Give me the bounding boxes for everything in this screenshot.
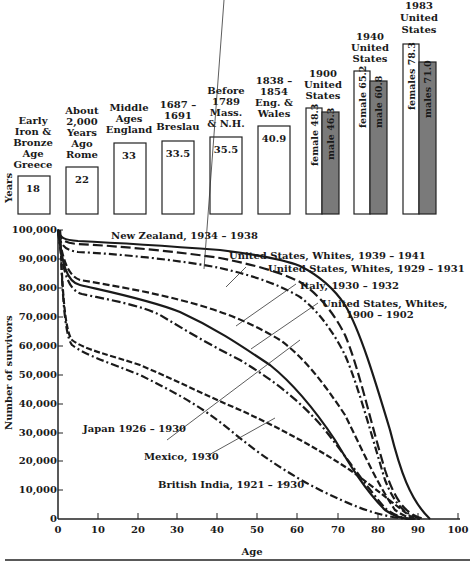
x-tick-label: 10 — [91, 524, 105, 535]
bar-label-line: United — [304, 79, 342, 90]
y-tick-label: 60,000 — [19, 340, 57, 352]
y-tick-label: 50,000 — [19, 369, 57, 381]
bar-value-male: male 46.3 — [325, 108, 336, 160]
bar-label-line: United — [351, 42, 389, 53]
x-tick-label: 20 — [131, 524, 145, 535]
bar-value-male: male 60.8 — [373, 75, 384, 128]
bar-label-line: Greece — [14, 159, 53, 170]
y-tick-label: 100,000 — [12, 224, 57, 236]
y-tick-label: 40,000 — [19, 398, 57, 410]
bar-us-1900: 1900 United States female 48.3 male 46.3 — [304, 68, 342, 214]
y-tick-label: 0 — [50, 513, 57, 524]
bar-breslau: 1687 – 1691 Breslau 33.5 — [156, 99, 199, 214]
x-tick-label: 80 — [371, 524, 385, 535]
bar-us-1983: 1983 United States females 78.3 males 71… — [400, 0, 438, 214]
bar-label-line: Wales — [257, 108, 291, 119]
y-axis-label: Number of survivors — [3, 315, 14, 430]
bar-label-line: Ages — [115, 113, 143, 124]
bar-label-line: Bronze — [13, 137, 53, 148]
label-us-1939-1941: United States, Whites, 1939 – 1941 — [229, 250, 426, 262]
y-tick-label: 70,000 — [19, 311, 57, 323]
bar-rome: About 2,000 Years Ago Rome 22 — [64, 105, 99, 214]
bar-greece: Early Iron & Bronze Age Greece 18 — [13, 115, 53, 214]
bar-value: 22 — [75, 174, 89, 185]
figure: Years Early Iron & Bronze Age Greece 18 … — [0, 0, 470, 565]
bar-label-line: & N.H. — [207, 118, 244, 129]
bar-value: 40.9 — [262, 133, 286, 144]
label-new-zealand: New Zealand, 1934 – 1938 — [111, 230, 258, 242]
bar-value-female: female 48.3 — [309, 104, 320, 166]
x-axis-label: Age — [240, 546, 262, 557]
y-tick-label: 10,000 — [19, 484, 57, 496]
bar-label-line: Eng. & — [255, 97, 293, 108]
bar-label-line: Breslau — [156, 121, 199, 132]
x-tick-label: 90 — [411, 524, 425, 535]
y-tick-label: 90,000 — [19, 253, 57, 265]
bar-value: 35.5 — [214, 144, 238, 155]
bar-value-female: female 65.2 — [357, 66, 368, 128]
bar-label-line: Early — [19, 115, 49, 126]
label-us-1929-1931: United States, Whites, 1929 – 1931 — [268, 263, 465, 275]
bar-label-line: States — [306, 90, 341, 101]
bar-label-line: States — [353, 53, 388, 64]
bar-label-line: 1983 — [405, 0, 433, 11]
bar-label-line: 1687 – — [160, 99, 196, 110]
x-tick-label: 0 — [55, 524, 62, 535]
bar-label-line: Age — [21, 148, 43, 159]
bar-value-male: males 71.0 — [422, 60, 433, 118]
bar-label-line: Middle — [109, 102, 148, 113]
bar-eng-wales: 1838 – 1854 Eng. & Wales 40.9 — [255, 75, 293, 214]
y-tick-label: 20,000 — [19, 455, 57, 467]
label-mexico: Mexico, 1930 — [144, 451, 219, 463]
bar-label-line: About — [64, 105, 99, 116]
bar-label-line: 1838 – — [256, 75, 292, 86]
bar-label-line: Mass. — [210, 107, 242, 118]
label-japan: Japan 1926 – 1930 — [82, 423, 186, 434]
leader-lines — [167, 0, 318, 485]
bar-england: Middle Ages England 33 — [106, 102, 152, 214]
bar-us-1940: 1940 United States female 65.2 male 60.8 — [351, 31, 389, 214]
bar-label-line: England — [106, 124, 152, 135]
bar-label-line: 1940 — [356, 31, 384, 42]
bar-label-line: States — [402, 24, 437, 35]
survivorship-plot: 0 10,000 20,000 30,000 40,000 50,000 60,… — [3, 0, 470, 560]
bar-value: 33 — [122, 150, 136, 161]
life-expectancy-bars: Years Early Iron & Bronze Age Greece 18 … — [3, 0, 438, 214]
bar-label-line: 1691 — [164, 110, 192, 121]
bar-value: 33.5 — [166, 148, 190, 159]
x-tick-label: 100 — [448, 524, 469, 535]
x-tick-label: 70 — [331, 524, 345, 535]
y-axis-ticks: 0 10,000 20,000 30,000 40,000 50,000 60,… — [12, 224, 63, 524]
y-tick-label: 30,000 — [19, 427, 57, 439]
bar-label-line: Before — [207, 85, 244, 96]
bar-label-line: 1900 — [309, 68, 337, 79]
x-axis-ticks: 0 10 20 30 40 50 60 70 80 90 100 — [55, 513, 469, 535]
x-tick-label: 30 — [170, 524, 184, 535]
bar-label-line: United — [400, 12, 438, 23]
bar-label-line: Years — [66, 127, 97, 138]
bar-label-line: Iron & — [15, 126, 51, 137]
bar-value: 18 — [26, 183, 40, 194]
label-italy: Italy, 1930 – 1932 — [300, 280, 399, 292]
y-tick-label: 80,000 — [19, 282, 57, 294]
x-tick-label: 40 — [210, 524, 224, 535]
label-british-india: British India, 1921 – 1930 — [158, 479, 304, 491]
bar-label-line: Ago — [70, 138, 93, 149]
x-tick-label: 60 — [290, 524, 304, 535]
bar-label-line: 1854 — [260, 86, 288, 97]
x-tick-label: 50 — [250, 524, 264, 535]
label-us-1900-1902-line2: 1900 – 1902 — [346, 309, 414, 320]
bar-value-female: females 78.3 — [406, 42, 417, 110]
bars-y-axis-label: Years — [3, 173, 14, 204]
bar-label-line: Rome — [66, 149, 98, 160]
